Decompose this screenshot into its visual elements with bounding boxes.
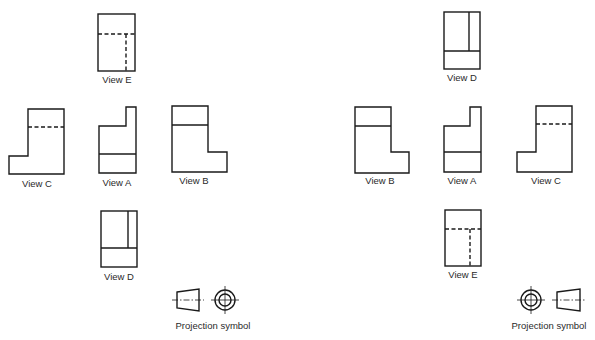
truncated-cone-icon	[552, 289, 586, 311]
view-b-outline	[355, 107, 409, 173]
left-projection-symbol-label: Projection symbol	[176, 320, 251, 331]
view-c-label: View C	[531, 175, 561, 186]
truncated-cone-icon	[172, 289, 204, 311]
concentric-circles-icon	[211, 286, 239, 314]
view-e-label: View E	[448, 269, 477, 280]
view-a-outline	[444, 107, 481, 172]
left-view-a: View A	[99, 107, 136, 188]
view-d-label: View D	[104, 271, 134, 282]
view-c-outline	[517, 106, 572, 172]
left-view-c: View C	[9, 109, 64, 189]
view-c-outline	[9, 109, 64, 174]
right-view-c: View C	[517, 106, 572, 186]
view-e-outline	[445, 210, 481, 266]
right-projection-symbol: Projection symbol	[512, 286, 587, 331]
view-e-label: View E	[102, 74, 131, 85]
view-a-label: View A	[103, 177, 133, 188]
concentric-circles-icon	[517, 286, 545, 314]
left-projection-symbol: Projection symbol	[172, 286, 250, 331]
view-b-label: View B	[179, 175, 208, 186]
view-c-label: View C	[22, 178, 52, 189]
left-view-d: View D	[101, 211, 137, 282]
view-b-outline	[172, 106, 227, 172]
left-view-b: View B	[172, 106, 227, 186]
view-d-label: View D	[447, 72, 477, 83]
view-a-label: View A	[448, 175, 478, 186]
right-view-a: View A	[444, 107, 481, 186]
right-view-d: View D	[444, 12, 480, 83]
orthographic-projection-diagram: View E View C View A View B View D	[0, 0, 595, 340]
view-d-outline	[444, 12, 480, 69]
right-projection-symbol-label: Projection symbol	[512, 320, 587, 331]
view-d-outline	[101, 211, 137, 267]
view-a-outline	[99, 107, 136, 173]
right-view-e: View E	[445, 210, 481, 280]
right-panel: View D View B View A View C View E	[355, 12, 586, 331]
view-b-label: View B	[365, 175, 394, 186]
left-panel: View E View C View A View B View D	[9, 14, 250, 331]
right-view-b: View B	[355, 107, 409, 186]
left-view-e: View E	[98, 14, 135, 85]
view-e-outline	[98, 14, 135, 71]
